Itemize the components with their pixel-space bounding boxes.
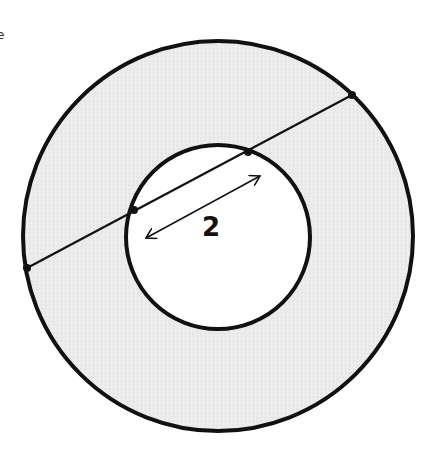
chord-point-outer-left bbox=[23, 264, 31, 272]
chord-point-inner-right bbox=[244, 148, 252, 156]
annulus-diagram: 2 bbox=[0, 0, 427, 455]
dimension-label: 2 bbox=[202, 212, 220, 242]
chord-point-inner-left bbox=[130, 206, 138, 214]
chord-point-outer-right bbox=[348, 91, 356, 99]
